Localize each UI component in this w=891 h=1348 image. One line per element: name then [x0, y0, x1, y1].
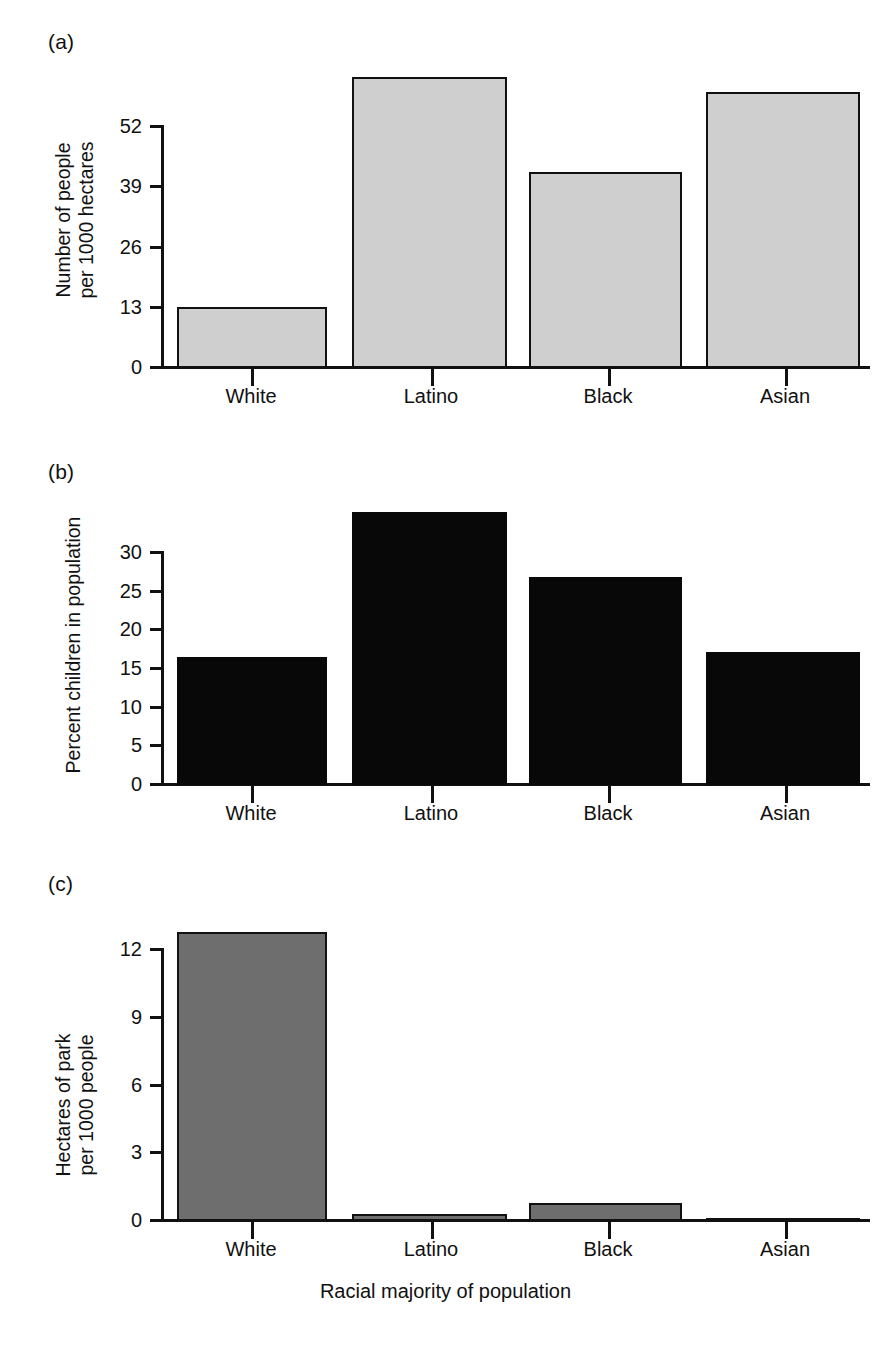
- bar-white: [177, 932, 327, 1221]
- y-axis-tick: [150, 1151, 161, 1154]
- y-axis-tick-label: 3: [90, 1141, 142, 1164]
- x-axis-tick-label: Latino: [361, 385, 501, 408]
- bar-black: [529, 577, 682, 785]
- bar-asian: [706, 1218, 860, 1222]
- y-axis-tick: [150, 706, 161, 709]
- x-axis-tick: [608, 1222, 611, 1239]
- bar-black: [529, 1203, 682, 1221]
- panel-a: (a) Number of people per 1000 hectares 0…: [0, 0, 891, 460]
- y-axis-tick: [150, 125, 161, 128]
- y-axis-tick-label: 26: [90, 235, 142, 258]
- bar-black: [529, 172, 682, 368]
- x-axis-tick: [251, 786, 254, 803]
- y-axis-tick-label: 30: [90, 541, 142, 564]
- bar-asian: [706, 92, 860, 368]
- y-axis-tick: [150, 306, 161, 309]
- panel-b: (b) Percent children in population 05101…: [0, 440, 891, 860]
- y-axis-tick-label: 20: [90, 618, 142, 641]
- y-axis-tick-label: 39: [90, 175, 142, 198]
- x-axis-tick: [251, 1222, 254, 1239]
- y-axis-tick: [150, 628, 161, 631]
- y-axis-tick-label: 9: [90, 1005, 142, 1028]
- x-axis-tick-label: Asian: [715, 385, 855, 408]
- bar-white: [177, 657, 327, 785]
- bar-white: [177, 307, 327, 368]
- y-axis-tick-label: 12: [90, 938, 142, 961]
- y-axis-spine: [161, 551, 164, 786]
- bar-latino: [352, 512, 507, 785]
- y-axis-tick: [150, 590, 161, 593]
- x-axis-tick: [251, 369, 254, 386]
- figure-bar-chart-panels: (a) Number of people per 1000 hectares 0…: [0, 0, 891, 1348]
- y-axis-tick: [150, 246, 161, 249]
- y-axis-spine: [161, 948, 164, 1222]
- x-axis-tick-label: White: [181, 802, 321, 825]
- x-axis-title: Racial majority of population: [0, 1280, 891, 1303]
- y-axis-tick-label: 25: [90, 579, 142, 602]
- y-axis-tick: [150, 1016, 161, 1019]
- y-axis-tick-label: 10: [90, 695, 142, 718]
- x-axis-tick-label: Black: [538, 802, 678, 825]
- y-axis-tick-label: 6: [90, 1073, 142, 1096]
- x-axis-tick-label: Black: [538, 385, 678, 408]
- y-axis-tick-label: 13: [90, 295, 142, 318]
- y-axis-tick-label: 15: [90, 657, 142, 680]
- bar-asian: [706, 652, 860, 785]
- y-axis-tick: [150, 783, 161, 786]
- x-axis-tick: [785, 786, 788, 803]
- x-axis-tick: [608, 369, 611, 386]
- y-axis-tick: [150, 744, 161, 747]
- y-axis-tick: [150, 667, 161, 670]
- x-axis-tick: [608, 786, 611, 803]
- x-axis-tick-label: White: [181, 385, 321, 408]
- y-axis-tick-label: 0: [90, 1209, 142, 1232]
- y-axis-spine: [161, 125, 164, 369]
- y-axis-tick: [150, 185, 161, 188]
- bar-latino: [352, 1214, 507, 1221]
- x-axis-tick: [785, 369, 788, 386]
- bar-latino: [352, 77, 507, 368]
- y-axis-tick: [150, 551, 161, 554]
- panel-c-plot-area: 036912WhiteLatinoBlackAsian: [0, 850, 891, 1348]
- x-axis-tick-label: Latino: [361, 1238, 501, 1261]
- x-axis-tick-label: Asian: [715, 1238, 855, 1261]
- y-axis-tick-label: 0: [90, 356, 142, 379]
- y-axis-tick-label: 52: [90, 115, 142, 138]
- x-axis-tick-label: Black: [538, 1238, 678, 1261]
- y-axis-tick: [150, 366, 161, 369]
- x-axis-tick: [431, 1222, 434, 1239]
- panel-c: (c) Hectares of park per 1000 people 036…: [0, 850, 891, 1348]
- panel-a-plot-area: 013263952WhiteLatinoBlackAsian: [0, 0, 891, 460]
- y-axis-tick: [150, 1219, 161, 1222]
- x-axis-tick-label: Latino: [361, 802, 501, 825]
- y-axis-tick-label: 0: [90, 773, 142, 796]
- x-axis-tick-label: White: [181, 1238, 321, 1261]
- y-axis-tick: [150, 1084, 161, 1087]
- x-axis-tick-label: Asian: [715, 802, 855, 825]
- y-axis-tick: [150, 948, 161, 951]
- panel-b-plot-area: 051015202530WhiteLatinoBlackAsian: [0, 440, 891, 860]
- y-axis-tick-label: 5: [90, 734, 142, 757]
- x-axis-tick: [431, 786, 434, 803]
- x-axis-tick: [785, 1222, 788, 1239]
- x-axis-tick: [431, 369, 434, 386]
